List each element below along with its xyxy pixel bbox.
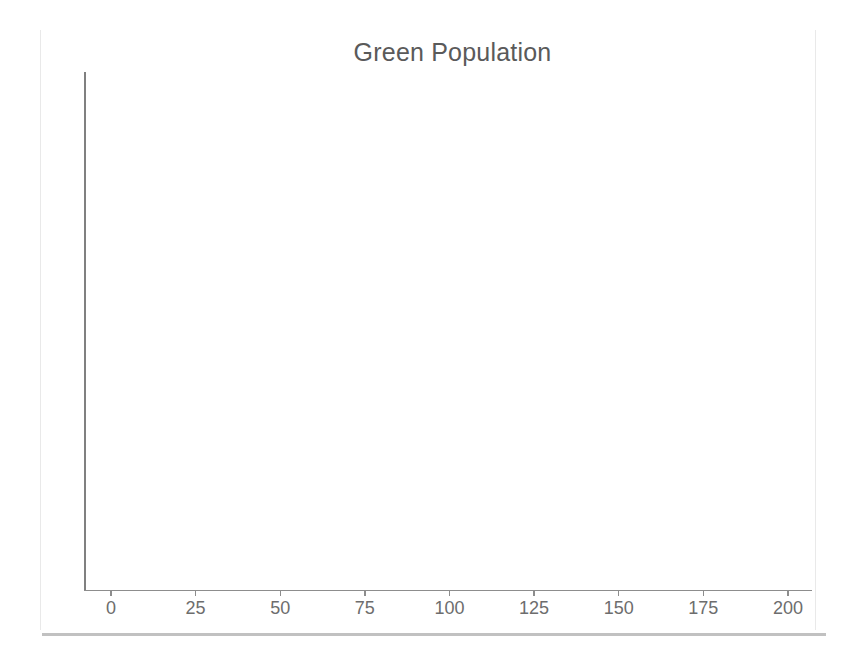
x-axis-tick-label: 175 — [663, 598, 743, 619]
y-axis-line — [84, 72, 86, 591]
x-axis-tick-label: 25 — [156, 598, 236, 619]
x-axis-tick — [787, 591, 788, 596]
plot-area — [85, 72, 812, 590]
x-axis-tick-label: 100 — [410, 598, 490, 619]
x-axis-tick — [449, 591, 450, 596]
x-axis-tick-label: 200 — [748, 598, 828, 619]
x-axis-tick — [533, 591, 534, 596]
x-axis-tick-label: 150 — [579, 598, 659, 619]
x-axis-tick — [618, 591, 619, 596]
x-axis-tick — [280, 591, 281, 596]
x-axis-tick — [195, 591, 196, 596]
x-axis-tick — [703, 591, 704, 596]
x-axis-tick-label: 75 — [325, 598, 405, 619]
x-axis-tick-label: 125 — [494, 598, 574, 619]
x-axis-tick — [110, 591, 111, 596]
chart-figure: Green Population 0255075100125150175200 — [0, 0, 859, 667]
x-axis-tick-label: 0 — [71, 598, 151, 619]
x-axis-tick — [364, 591, 365, 596]
x-axis-tick-label: 50 — [240, 598, 320, 619]
chart-title: Green Population — [120, 38, 785, 67]
